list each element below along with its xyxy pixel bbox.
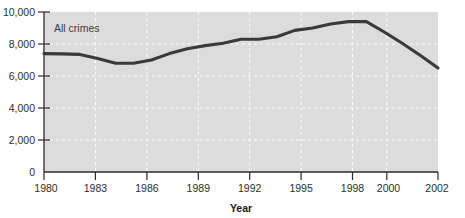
series-label-all-crimes: All crimes xyxy=(54,22,100,34)
y-tick-label: 4,000 xyxy=(9,102,35,114)
chart-figure: Rate per 100,000 population aged 10 and … xyxy=(0,0,465,218)
x-tick-label: 1980 xyxy=(34,182,58,194)
x-tick-label: 1983 xyxy=(84,182,108,194)
x-tick-marks xyxy=(44,172,438,180)
y-tick-label: 10,000 xyxy=(3,6,35,18)
y-tick-label: 6,000 xyxy=(9,70,35,82)
x-tick-label: 1998 xyxy=(341,182,365,194)
x-tick-label: 1989 xyxy=(187,182,211,194)
y-tick-label: 8,000 xyxy=(9,38,35,50)
x-tick-label: 2000 xyxy=(377,182,401,194)
line-chart: 10,000 8,000 6,000 4,000 2,000 0 1980 19… xyxy=(0,0,465,218)
y-tick-label: 0 xyxy=(29,166,35,178)
x-tick-label: 1992 xyxy=(238,182,262,194)
y-tick-label: 2,000 xyxy=(9,134,35,146)
plot-background xyxy=(44,12,438,172)
x-tick-label: 2002 xyxy=(425,182,449,194)
x-axis-title: Year xyxy=(230,202,252,214)
x-tick-label: 1986 xyxy=(135,182,159,194)
x-tick-label: 1995 xyxy=(289,182,313,194)
